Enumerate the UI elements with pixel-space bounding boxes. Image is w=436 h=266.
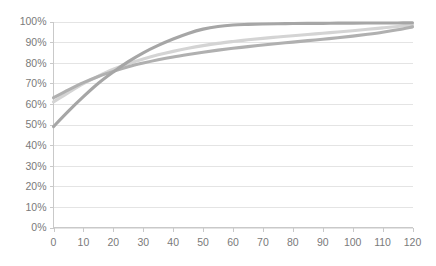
chart-canvas: 0%10%20%30%40%50%60%70%80%90%100% 010203… [0,0,436,266]
y-tick-label: 90% [25,36,46,48]
y-tick-label: 30% [25,160,46,172]
line-chart: 0%10%20%30%40%50%60%70%80%90%100% 010203… [0,0,436,266]
x-tick-label: 80 [287,236,299,248]
x-tick-labels: 0102030405060708090100110120 [51,236,422,248]
x-tick-label: 100 [344,236,362,248]
y-tick-label: 0% [31,221,46,233]
y-tick-labels: 0%10%20%30%40%50%60%70%80%90%100% [20,15,47,233]
x-tick-label: 40 [167,236,179,248]
y-tick-label: 10% [25,201,46,213]
y-tick-label: 40% [25,139,46,151]
gridlines [54,23,413,229]
y-tick-label: 60% [25,98,46,110]
x-tick-label: 50 [197,236,209,248]
series-line-series-1-steep [54,23,413,127]
y-tick-label: 100% [20,15,47,27]
y-tick-label: 50% [25,118,46,130]
x-tick-label: 60 [227,236,239,248]
series-line-series-3-mid [54,27,413,98]
y-tick-label: 20% [25,180,46,192]
x-tick-label: 70 [257,236,269,248]
y-tick-label: 70% [25,77,46,89]
x-tick-label: 20 [107,236,119,248]
x-tick-label: 30 [137,236,149,248]
x-tick-label: 90 [317,236,329,248]
x-tick-label: 0 [51,236,57,248]
y-tick-label: 80% [25,57,46,69]
x-tick-label: 110 [374,236,391,248]
x-tick-label: 120 [404,236,422,248]
series-group [54,23,413,127]
x-tick-label: 10 [78,236,90,248]
